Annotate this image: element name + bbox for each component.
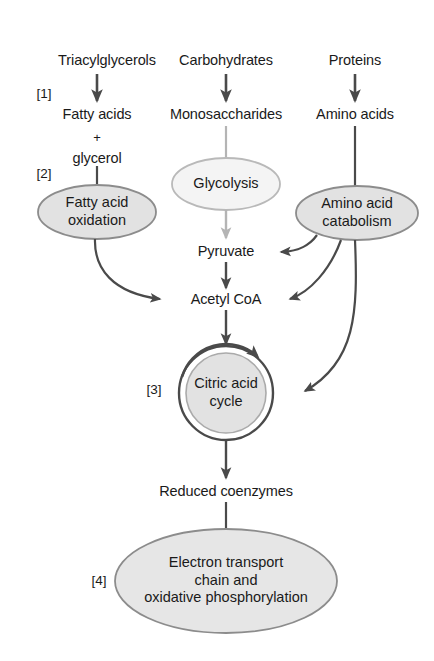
label-amino-acid-catabolism-line2: catabolism (321, 213, 393, 231)
label-triacylglycerols: Triacylglycerols (58, 52, 156, 68)
label-amino-acid-catabolism: Amino acid catabolism (321, 195, 393, 230)
label-monosaccharides: Monosaccharides (170, 106, 282, 122)
plus-symbol: + (93, 130, 101, 145)
label-citric-acid-cycle-line1: Citric acid (194, 375, 258, 393)
label-electron-transport-chain-line1: Electron transport (144, 554, 308, 572)
label-pyruvate: Pyruvate (198, 243, 254, 259)
label-acetyl-coa: Acetyl CoA (191, 291, 262, 307)
label-electron-transport-chain-line2: chain and (144, 572, 308, 590)
arrow-amino-acid-catabolism-to-pyruvate (281, 235, 317, 252)
label-citric-acid-cycle-line2: cycle (194, 393, 258, 411)
label-reduced-coenzymes: Reduced coenzymes (159, 483, 293, 499)
step-tag-1: [1] (36, 86, 51, 101)
label-glycolysis-line1: Glycolysis (193, 175, 258, 193)
arrow-fatty-acid-oxidation-to-acetyl-coa (95, 239, 160, 299)
label-fatty-acid-oxidation: Fatty acid oxidation (66, 194, 129, 229)
step-tag-2: [2] (36, 166, 51, 181)
label-fatty-acids: Fatty acids (62, 106, 131, 122)
label-carbohydrates: Carbohydrates (179, 52, 273, 68)
label-glycerol: glycerol (72, 150, 121, 166)
label-electron-transport-chain: Electron transport chain and oxidative p… (144, 554, 308, 607)
label-fatty-acid-oxidation-line1: Fatty acid (66, 194, 129, 212)
step-tag-4: [4] (91, 573, 106, 588)
catabolism-overview-diagram: [1] [2] [3] [4] Triacylglycerols Carbohy… (0, 0, 434, 661)
label-glycolysis: Glycolysis (193, 175, 258, 193)
step-tag-3: [3] (146, 382, 161, 397)
label-amino-acid-catabolism-line1: Amino acid (321, 195, 393, 213)
label-amino-acids: Amino acids (316, 106, 394, 122)
label-fatty-acid-oxidation-line2: oxidation (66, 212, 129, 230)
label-citric-acid-cycle: Citric acid cycle (194, 375, 258, 410)
label-proteins: Proteins (329, 52, 381, 68)
label-electron-transport-chain-line3: oxidative phosphorylation (144, 590, 308, 608)
